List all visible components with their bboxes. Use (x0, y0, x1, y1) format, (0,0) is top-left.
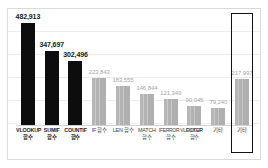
bar-value-label: 183,555 (113, 77, 134, 84)
plot-area: 482,913347,697302,496223,843183,555146,8… (16, 15, 254, 125)
bar-value-label: 482,913 (16, 13, 41, 21)
category-label-line: IF 함수 (87, 127, 111, 134)
category-label-line: 함수 (135, 134, 159, 141)
category-label-line: VLOOKUP (16, 127, 40, 134)
bar-rect (92, 78, 106, 125)
bar-rect (235, 79, 249, 125)
category-label-9: 기타 (206, 127, 230, 134)
bar-rect (21, 23, 35, 125)
category-label-line: IFERROR VLOOKUP (159, 127, 183, 134)
bar-rect (164, 99, 178, 125)
bar-value-label: 302,496 (63, 51, 88, 59)
bar-10: 217,997 (230, 15, 254, 125)
bar-2: 347,697 (40, 15, 64, 125)
category-label-line: MATCH (135, 127, 159, 134)
bar-rect (187, 106, 201, 125)
category-label-8: FILTER함수 (183, 127, 207, 141)
bar-rect (211, 108, 225, 125)
bar-8: 90,045 (183, 15, 207, 125)
bar-value-label: 79,240 (209, 99, 227, 106)
bar-3: 302,496 (64, 15, 88, 125)
category-label-5: LEN 함수 (111, 127, 135, 134)
category-label-2: SUMIF함수 (40, 127, 64, 141)
category-label-line: 함수 (183, 134, 207, 141)
bar-6: 146,844 (135, 15, 159, 125)
category-label-4: IF 함수 (87, 127, 111, 134)
bar-5: 183,555 (111, 15, 135, 125)
category-label-line: 함수 (64, 134, 88, 141)
category-label-line: 함수 (40, 134, 64, 141)
bar-value-label: 146,844 (136, 85, 157, 92)
bar-rect (45, 51, 59, 125)
bar-rect (140, 94, 154, 125)
x-axis-line (16, 125, 252, 126)
bar-9: 79,240 (206, 15, 230, 125)
category-label-line: 기타 (230, 127, 254, 134)
category-label-1: VLOOKUP함수 (16, 127, 40, 141)
category-label-line: COUNTIF (64, 127, 88, 134)
bar-value-label: 121,349 (160, 90, 181, 97)
bar-rect (68, 61, 82, 125)
category-label-line: 함수 (159, 134, 183, 141)
bar-value-label: 347,697 (39, 41, 64, 49)
category-label-line: LEN 함수 (111, 127, 135, 134)
category-label-line: FILTER (183, 127, 207, 134)
category-label-line: 함수 (16, 134, 40, 141)
bar-chart: 482,913347,697302,496223,843183,555146,8… (0, 0, 268, 168)
category-label-7: IFERROR VLOOKUP함수 (159, 127, 183, 141)
category-label-line: SUMIF (40, 127, 64, 134)
bar-4: 223,843 (87, 15, 111, 125)
bar-value-label: 217,997 (232, 70, 253, 77)
category-axis: VLOOKUP함수SUMIF함수COUNTIF함수IF 함수LEN 함수MATC… (16, 127, 254, 157)
plot-frame: 482,913347,697302,496223,843183,555146,8… (7, 8, 261, 160)
category-label-6: MATCH함수 (135, 127, 159, 141)
bar-value-label: 223,843 (89, 69, 110, 76)
bar-rect (116, 86, 130, 125)
category-label-3: COUNTIF함수 (64, 127, 88, 141)
category-label-line: 기타 (206, 127, 230, 134)
category-label-10: 기타 (230, 127, 254, 134)
bar-value-label: 90,045 (186, 97, 204, 104)
bar-7: 121,349 (159, 15, 183, 125)
bar-1: 482,913 (16, 15, 40, 125)
